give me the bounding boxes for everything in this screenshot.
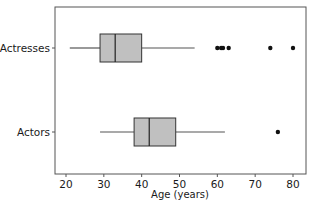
chart-svg: 20304050607080 ActressesActors Age (year…: [0, 0, 313, 207]
boxplot-chart: 20304050607080 ActressesActors Age (year…: [0, 0, 313, 207]
iqr-box: [100, 34, 142, 62]
x-axis: 20304050607080: [59, 174, 299, 190]
x-tick-label: 80: [286, 178, 299, 190]
x-tick-label: 70: [248, 178, 261, 190]
iqr-box: [134, 118, 176, 146]
outlier-point: [291, 46, 295, 50]
y-category-label: Actresses: [0, 42, 50, 54]
outlier-point: [226, 46, 230, 50]
outlier-point: [268, 46, 272, 50]
x-axis-title: Age (years): [151, 189, 209, 200]
outlier-point: [276, 130, 280, 134]
x-tick-label: 60: [211, 178, 224, 190]
x-tick-label: 40: [135, 178, 148, 190]
y-category-label: Actors: [17, 126, 50, 138]
outlier-point: [221, 46, 225, 50]
y-axis: ActressesActors: [0, 42, 55, 138]
x-tick-label: 20: [59, 178, 72, 190]
plot-frame: [55, 7, 306, 174]
x-tick-label: 30: [97, 178, 110, 190]
outlier-point: [215, 46, 219, 50]
